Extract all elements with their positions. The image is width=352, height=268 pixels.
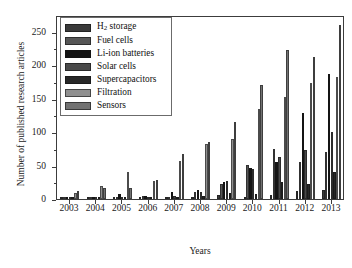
legend-swatch bbox=[65, 89, 91, 97]
legend-swatch bbox=[65, 37, 91, 45]
y-axis-minor-tick bbox=[54, 116, 57, 117]
legend-swatch bbox=[65, 102, 91, 110]
legend-item[interactable]: Li-ion batteries bbox=[65, 47, 168, 60]
legend-label: Solar cells bbox=[97, 61, 136, 72]
legend-item[interactable]: Filtration bbox=[65, 86, 168, 99]
chart-figure: Number of published research articles 05… bbox=[0, 0, 352, 268]
bar bbox=[103, 188, 105, 199]
bar bbox=[260, 85, 262, 199]
legend-swatch bbox=[65, 63, 91, 71]
legend-swatch bbox=[65, 24, 91, 32]
legend-label: Supercapacitors bbox=[97, 74, 156, 85]
y-axis-tick bbox=[52, 133, 56, 134]
bar bbox=[156, 180, 158, 199]
legend-label: Fuel cells bbox=[97, 35, 133, 46]
bar bbox=[208, 142, 210, 199]
bar-group bbox=[240, 17, 266, 199]
y-axis-tick-label: 150 bbox=[12, 95, 46, 105]
y-axis-tick bbox=[52, 100, 56, 101]
bar bbox=[182, 154, 184, 199]
bar-group bbox=[293, 17, 319, 199]
legend-item[interactable]: H2 storage bbox=[65, 21, 168, 34]
bar-group bbox=[266, 17, 292, 199]
y-axis-minor-tick bbox=[54, 183, 57, 184]
bar bbox=[234, 122, 236, 199]
y-axis-tick bbox=[52, 33, 56, 34]
bar bbox=[313, 57, 315, 199]
y-axis-tick-label: 0 bbox=[12, 195, 46, 205]
y-axis-tick-label: 250 bbox=[12, 28, 46, 38]
y-axis-tick-label: 100 bbox=[12, 128, 46, 138]
legend-item[interactable]: Supercapacitors bbox=[65, 73, 168, 86]
legend-item[interactable]: Fuel cells bbox=[65, 34, 168, 47]
bar bbox=[129, 188, 131, 199]
y-axis-tick-label: 50 bbox=[12, 162, 46, 172]
legend-swatch bbox=[65, 50, 91, 58]
legend-label: Li-ion batteries bbox=[97, 48, 154, 59]
y-axis-tick bbox=[52, 66, 56, 67]
bar-group bbox=[319, 17, 345, 199]
y-axis-minor-tick bbox=[54, 83, 57, 84]
legend-label: Sensors bbox=[97, 100, 126, 111]
y-axis-title: Number of published research articles bbox=[14, 14, 28, 214]
y-axis-tick bbox=[52, 200, 56, 201]
y-axis-tick-label: 200 bbox=[12, 61, 46, 71]
bar-group bbox=[188, 17, 214, 199]
y-axis-minor-tick bbox=[54, 49, 57, 50]
legend-item[interactable]: Solar cells bbox=[65, 60, 168, 73]
x-axis-title: Years bbox=[55, 246, 345, 256]
legend-swatch bbox=[65, 76, 91, 84]
chart-legend: H2 storageFuel cellsLi-ion batteriesSola… bbox=[60, 17, 172, 116]
bar bbox=[339, 25, 341, 199]
bar-group bbox=[214, 17, 240, 199]
bar bbox=[286, 50, 288, 199]
y-axis-tick bbox=[52, 167, 56, 168]
x-axis-tick-label: 2013 bbox=[311, 204, 351, 214]
legend-label: Filtration bbox=[97, 87, 132, 98]
bar bbox=[77, 191, 79, 199]
y-axis-minor-tick bbox=[54, 150, 57, 151]
legend-item[interactable]: Sensors bbox=[65, 99, 168, 112]
legend-label: H2 storage bbox=[97, 21, 136, 34]
